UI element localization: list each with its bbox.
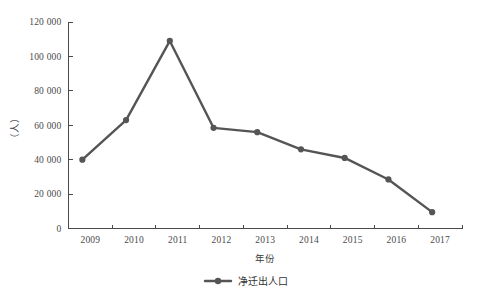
y-tick-label: 80 000	[34, 86, 61, 96]
x-tick-label: 2010	[124, 235, 144, 245]
chart-container: （人） 020 00040 00060 00080 000100 000120 …	[0, 0, 478, 301]
chart-legend: 净迁出人口	[205, 275, 288, 287]
x-tick-label: 2009	[80, 235, 100, 245]
x-tick-label: 2013	[255, 235, 275, 245]
data-point	[254, 129, 260, 135]
y-axis-title: （人）	[9, 113, 20, 143]
line-chart: （人） 020 00040 00060 00080 000100 000120 …	[0, 0, 478, 301]
y-tick-label: 120 000	[29, 17, 61, 27]
y-tick-label: 40 000	[34, 155, 61, 165]
x-tick-label: 2014	[299, 235, 319, 245]
data-point	[342, 155, 348, 161]
y-axis-tick-marks	[69, 22, 73, 229]
series-markers	[79, 38, 435, 215]
data-point	[167, 38, 173, 44]
x-tick-label: 2017	[430, 235, 450, 245]
data-point	[429, 209, 435, 215]
x-tick-label: 2011	[168, 235, 187, 245]
x-axis-tick-marks	[69, 225, 463, 229]
y-tick-label: 20 000	[34, 189, 61, 199]
x-tick-label: 2015	[343, 235, 363, 245]
x-tick-label: 2016	[387, 235, 407, 245]
data-point	[79, 157, 85, 163]
series-line-net-outmigration	[82, 41, 432, 212]
y-axis-tick-labels: 020 00040 00060 00080 000100 000120 000	[29, 17, 61, 234]
data-point	[123, 117, 129, 123]
x-tick-label: 2012	[212, 235, 232, 245]
data-point	[298, 146, 304, 152]
legend-marker-swatch	[215, 278, 221, 284]
data-series-group	[79, 38, 435, 215]
x-axis-tick-labels: 200920102011201220132014201520162017	[80, 235, 450, 245]
y-tick-label: 0	[57, 224, 62, 234]
data-point	[385, 176, 391, 182]
y-tick-label: 60 000	[34, 121, 61, 131]
legend-label-net-outmigration: 净迁出人口	[238, 275, 288, 287]
x-axis-title: 年份	[255, 253, 275, 264]
y-tick-label: 100 000	[29, 52, 61, 62]
data-point	[210, 125, 216, 131]
